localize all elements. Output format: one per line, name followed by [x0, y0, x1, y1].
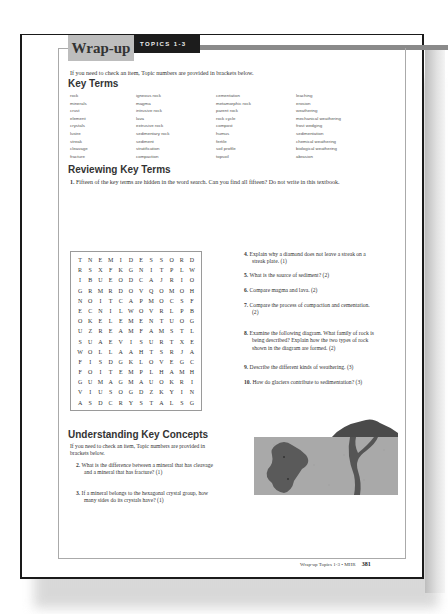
question-9: 9. Describe the different kinds of weath…	[244, 364, 376, 371]
word-search-letter: D	[106, 357, 116, 367]
page-edge-shadow	[425, 48, 445, 593]
content-frame-corner	[58, 48, 68, 49]
igneous-rock-diagram-icon	[254, 415, 402, 497]
word-search-row: VIUSOGDZKYIN	[75, 387, 197, 397]
word-search-letter: H	[156, 367, 166, 377]
question-number: 10.	[244, 379, 251, 385]
reviewing-heading: Reviewing Key Terms	[68, 164, 171, 175]
word-search-letter: Z	[146, 387, 156, 397]
word-search-row: FOITEMPLHAMH	[75, 367, 197, 377]
page-footer: Wrap-up Topics 1-3 • MHR 381	[300, 561, 371, 567]
question-text: Explain why a diamond does not leave a s…	[250, 251, 366, 264]
key-term: topsoil	[216, 153, 296, 161]
word-search-row: IBUEODCAJRIO	[75, 275, 197, 285]
key-term: abrasion	[296, 153, 366, 161]
word-search-letter: O	[116, 387, 126, 397]
word-search-letter: S	[156, 347, 166, 357]
word-search-letter: R	[116, 398, 126, 408]
word-search-letter: E	[106, 326, 116, 336]
word-search-letter: G	[187, 398, 197, 408]
word-search-letter: C	[116, 296, 126, 306]
word-search-letter: C	[167, 296, 177, 306]
word-search-letter: S	[106, 387, 116, 397]
word-search-letter: I	[75, 275, 85, 285]
word-search-letter: N	[136, 265, 146, 275]
key-term: biological weathering	[296, 145, 366, 153]
word-search-letter: I	[106, 306, 116, 316]
question-number: 1.	[70, 179, 75, 185]
word-search-letter: U	[146, 377, 156, 387]
word-search-letter: L	[106, 316, 116, 326]
key-term: sediment	[136, 138, 216, 146]
word-search-letter: U	[95, 387, 105, 397]
page-number: 381	[362, 561, 371, 567]
word-search-letter: N	[146, 316, 156, 326]
word-search-letter: H	[136, 347, 146, 357]
word-search-letter: E	[95, 316, 105, 326]
word-search-letter: O	[156, 377, 166, 387]
question-5: 5. What is the source of sediment? (2)	[244, 272, 376, 279]
word-search-letter: O	[156, 296, 166, 306]
word-search-letter: X	[95, 265, 105, 275]
key-term: lava	[136, 115, 216, 123]
word-search-letter: L	[177, 265, 187, 275]
word-search-letter: A	[116, 326, 126, 336]
word-search-letter: G	[126, 387, 136, 397]
word-search-letter: E	[95, 255, 105, 265]
word-search-letter: E	[75, 306, 85, 316]
word-search-letter: L	[116, 306, 126, 316]
word-search-letter: O	[116, 275, 126, 285]
word-search-letter: D	[136, 387, 146, 397]
word-search-letter: C	[106, 398, 116, 408]
word-search-letter: S	[177, 398, 187, 408]
word-search-row: NOITCAPMOCSF	[75, 296, 197, 306]
word-search-row: TNEMIDESSORD	[75, 255, 197, 265]
word-search-letter: R	[85, 286, 95, 296]
word-search-letter: E	[116, 367, 126, 377]
understanding-heading: Understanding Key Concepts	[68, 429, 208, 440]
intro-text: If you need to check an item, Topic numb…	[70, 70, 254, 76]
word-search-letter: O	[167, 255, 177, 265]
key-term: mechanical weathering	[296, 115, 366, 123]
word-search-letter: R	[106, 286, 116, 296]
word-search-letter: B	[85, 275, 95, 285]
word-search-letter: W	[126, 306, 136, 316]
word-search-letter: A	[126, 347, 136, 357]
key-term: crust	[70, 107, 136, 115]
question-1: 1. Fifteen of the key terms are hidden i…	[70, 178, 380, 186]
key-term: minerals	[70, 100, 136, 108]
word-search-row: ECNILWOVRLPB	[75, 306, 197, 316]
word-search-letter: T	[177, 326, 187, 336]
word-search-letter: T	[156, 265, 166, 275]
key-terms-column: leachingerosionweatheringmechanical weat…	[296, 92, 366, 160]
word-search-letter: A	[136, 377, 146, 387]
word-search-letter: L	[106, 347, 116, 357]
section-title: Wrap-up	[68, 35, 134, 61]
word-search-letter: A	[156, 398, 166, 408]
key-term: sedimentation	[296, 130, 366, 138]
word-search-letter: A	[95, 337, 105, 347]
word-search-letter: G	[177, 357, 187, 367]
question-text: What is the difference between a mineral…	[82, 462, 213, 475]
word-search-letter: U	[85, 377, 95, 387]
word-search-letter: T	[146, 398, 156, 408]
word-search-letter: H	[187, 367, 197, 377]
question-text: Compare the process of compaction and ce…	[250, 302, 370, 315]
key-term: weathering	[296, 107, 366, 115]
word-search-letter: E	[187, 337, 197, 347]
word-search-letter: N	[95, 306, 105, 316]
word-search-letter: P	[136, 367, 146, 377]
word-search-letter: T	[146, 347, 156, 357]
question-text: If a mineral belongs to the hexagonal cr…	[82, 490, 208, 503]
word-search-letter: T	[156, 316, 166, 326]
word-search-letter: G	[75, 377, 85, 387]
word-search-letter: N	[187, 387, 197, 397]
word-search-letter: I	[177, 275, 187, 285]
question-3: 3. If a mineral belongs to the hexagonal…	[76, 490, 216, 505]
word-search-letter: M	[126, 326, 136, 336]
word-search-letter: I	[177, 387, 187, 397]
word-search-letter: S	[177, 296, 187, 306]
key-term: chemical weathering	[296, 138, 366, 146]
key-term: fertile	[216, 138, 296, 146]
word-search-letter: I	[85, 357, 95, 367]
